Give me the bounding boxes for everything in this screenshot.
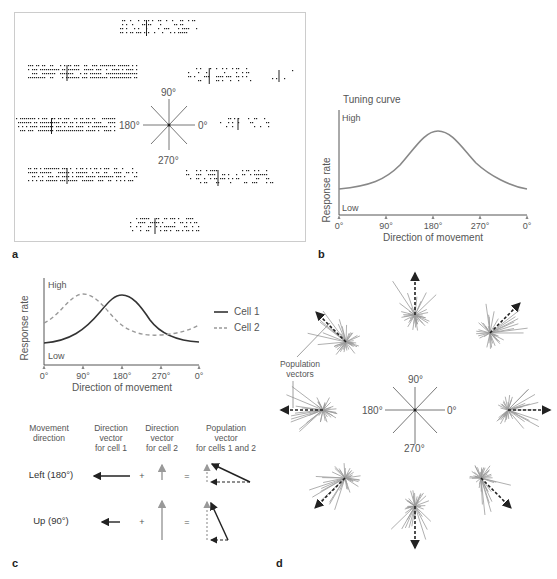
panel-c-vector-table: Movement direction Direction vector for …	[12, 423, 256, 569]
compass-a-90: 90°	[161, 87, 176, 98]
header-cell2: for cell 2	[146, 443, 178, 453]
chart-b-high: High	[342, 113, 361, 123]
chart-c-low: Low	[48, 351, 65, 361]
equals-sign: =	[184, 517, 189, 527]
header-cell1: Direction	[94, 423, 128, 433]
panel-d-population: 90° 180° 0° 270° Population vectors d	[276, 273, 550, 569]
chart-b-title: Tuning curve	[343, 94, 401, 105]
panel-letter-c: c	[12, 557, 18, 569]
panel-letter-b: b	[318, 248, 325, 260]
chart-c-tick: 180°	[113, 371, 132, 381]
pop-resultant-arrow	[212, 464, 250, 482]
header-movement: direction	[33, 433, 65, 443]
chart-c-tick: 0°	[40, 371, 49, 381]
chart-b-tick: 180°	[424, 221, 443, 231]
annotation-population-vectors: Population	[280, 359, 320, 369]
header-population: vector	[214, 433, 237, 443]
chart-c-tick: 270°	[152, 371, 171, 381]
header-cell1: vector	[99, 433, 122, 443]
legend-cell1: Cell 1	[234, 306, 260, 317]
compass-d-90: 90°	[408, 374, 423, 385]
chart-b-low: Low	[342, 203, 359, 213]
compass-a-180: 180°	[119, 120, 140, 131]
row-up-label: Up (90°)	[33, 515, 68, 526]
panel-letter-d: d	[276, 557, 283, 569]
tuning-curve-line	[339, 131, 527, 189]
header-movement: Movement	[29, 423, 69, 433]
chart-c-tick: 90°	[76, 371, 90, 381]
chart-b-tick: 0°	[335, 221, 344, 231]
equals-sign: =	[184, 471, 189, 481]
panel-a-raster: 90° 180° 0° 270° a	[12, 13, 306, 261]
chart-b-tick: 270°	[471, 221, 490, 231]
row-left-label: Left (180°)	[29, 469, 73, 480]
chart-b-xlabel: Direction of movement	[383, 232, 483, 243]
compass-a-0: 0°	[198, 120, 208, 131]
annotation-population-vectors: vectors	[286, 369, 313, 379]
plus-sign: +	[139, 471, 144, 481]
chart-c-high: High	[48, 280, 67, 290]
panel-c-chart: Response rate High Low 0° 90° 180° 270° …	[19, 278, 260, 393]
chart-c-xlabel: Direction of movement	[72, 382, 172, 393]
legend-cell2: Cell 2	[234, 322, 260, 333]
annotation-leader	[297, 323, 330, 357]
cell1-curve	[44, 295, 199, 343]
compass-a-270: 270°	[158, 155, 179, 166]
chart-c-tick: 0°	[195, 371, 204, 381]
header-cell1: for cell 1	[95, 443, 127, 453]
plus-sign: +	[139, 517, 144, 527]
compass-d-270: 270°	[404, 443, 425, 454]
chart-b-tick: 0°	[523, 221, 532, 231]
chart-c-ylabel: Response rate	[19, 295, 30, 360]
compass-d-0: 0°	[447, 405, 457, 416]
compass-d	[385, 387, 445, 444]
header-population: Population	[206, 423, 246, 433]
header-cell2: Direction	[145, 423, 179, 433]
chart-b-tick: 90°	[379, 221, 393, 231]
panel-letter-a: a	[12, 248, 19, 260]
panel-b-tuning-curve: Tuning curve Response rate High Low 0° 9…	[318, 94, 532, 260]
cell2-curve	[44, 294, 199, 335]
compass-d-180: 180°	[362, 405, 383, 416]
header-population: for cells 1 and 2	[196, 443, 256, 453]
chart-b-ylabel: Response rate	[321, 157, 332, 222]
pop-resultant-arrow	[211, 503, 228, 540]
header-cell2: vector	[150, 433, 173, 443]
